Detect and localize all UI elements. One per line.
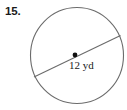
center-point-dot <box>73 53 78 58</box>
diameter-measurement-label: 12 yd <box>69 59 94 71</box>
geometry-figure: 15. 12 yd <box>0 0 127 110</box>
circle-diagram <box>0 0 127 110</box>
